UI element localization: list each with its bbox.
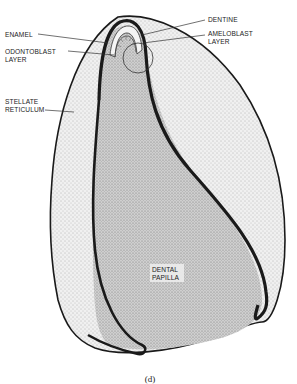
label-enamel: ENAMEL (5, 31, 33, 38)
label-ameloblast-line1: AMELOBLAST (208, 30, 253, 37)
label-papilla-line1: DENTAL (152, 266, 178, 273)
label-ameloblast-line2: LAYER (208, 38, 230, 45)
label-odontoblast-line2: LAYER (5, 56, 27, 63)
label-dentine: DENTINE (208, 16, 238, 23)
label-stellate-line1: STELLATE (5, 98, 39, 105)
figure-caption: (d) (145, 374, 156, 384)
tooth-bell-stage-diagram: DENTINE AMELOBLAST LAYER ENAMEL ODONTOBL… (0, 0, 297, 384)
label-stellate-line2: RETICULUM (5, 106, 44, 113)
label-odontoblast-line1: ODONTOBLAST (5, 48, 56, 55)
label-papilla-line2: PAPILLA (152, 274, 179, 281)
